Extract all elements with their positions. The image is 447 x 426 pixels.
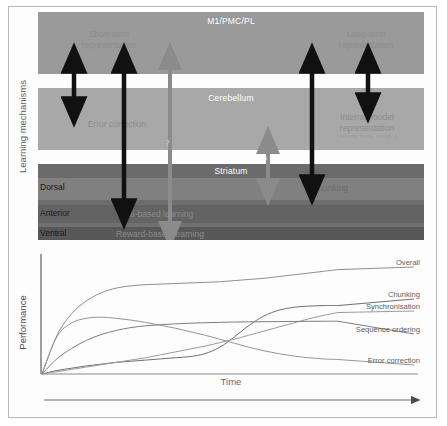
striatum-label-ventral: Ventral [40, 228, 66, 238]
striatum-label-dorsal: Dorsal [40, 182, 65, 192]
panel-a-axis-label: Learning mechanisms [14, 18, 30, 234]
performance-label: Performance [17, 295, 28, 349]
figure-root: Learning mechanisms M1/PMC/PL Short-term… [0, 0, 447, 426]
curve-label-error-correction: Error correction [368, 356, 420, 365]
panel-b-performance-chart: Time OverallChunkingSynchronisationSeque… [38, 252, 424, 410]
curve-label-chunking: Chunking [388, 290, 420, 299]
panel-b-axis-label: Performance [14, 262, 30, 382]
curve-label-overall: Overall [396, 258, 420, 267]
question-mark-left: ? [166, 139, 170, 148]
arrow-overlay [38, 12, 424, 240]
time-axis-label: Time [221, 376, 242, 387]
curve-group [42, 267, 414, 374]
curve-chunking [42, 299, 414, 374]
curve-overall [42, 267, 414, 374]
question-mark-right: ? [264, 156, 268, 165]
curve-label-synchronisation: Synchronisation [366, 302, 420, 311]
striatum-label-anterior: Anterior [40, 208, 70, 218]
learning-mechanisms-label: Learning mechanisms [17, 80, 28, 173]
curve-label-sequence-ordering: Sequence ordering [356, 325, 420, 334]
panel-a-brain-regions: M1/PMC/PL Short-term representation Long… [38, 12, 424, 240]
